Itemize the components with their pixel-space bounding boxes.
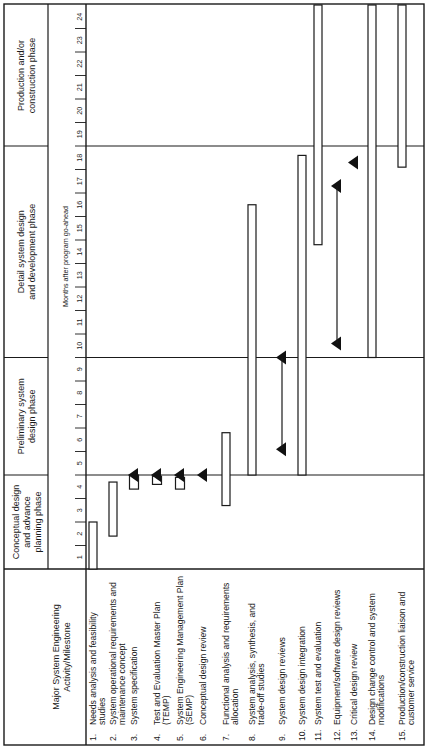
month-tick-label: 20 bbox=[75, 107, 84, 115]
activity-bar-1 bbox=[89, 522, 97, 569]
activity-number: 8. bbox=[247, 734, 257, 741]
axis-label: Months after program go-ahead bbox=[61, 206, 70, 307]
activity-number: 13. bbox=[349, 729, 359, 741]
activity-label: (SEMP) bbox=[184, 695, 194, 725]
activity-label: allocation bbox=[230, 688, 240, 725]
phase-label: construction phase bbox=[27, 38, 37, 114]
month-tick-label: 24 bbox=[75, 13, 84, 21]
activity-number: 2. bbox=[108, 734, 118, 741]
milestone-9 bbox=[276, 351, 286, 365]
activity-number: 5. bbox=[175, 734, 185, 741]
phase-label: Production and/or bbox=[16, 40, 26, 111]
month-tick-label: 14 bbox=[75, 248, 84, 256]
gantt-chart: Conceptual designand advanceplanning pha… bbox=[0, 0, 429, 749]
activity-number: 15. bbox=[397, 729, 407, 741]
phase-label: Conceptual design bbox=[11, 485, 21, 560]
month-tick-label: 12 bbox=[75, 295, 84, 303]
activity-label: (TEMP) bbox=[161, 695, 171, 725]
activity-label: Critical design review bbox=[349, 643, 359, 725]
month-tick-label: 6 bbox=[75, 438, 84, 442]
activity-number: 11. bbox=[313, 730, 323, 741]
month-tick-label: 22 bbox=[75, 60, 84, 68]
phase-label: Preliminary system bbox=[16, 378, 26, 454]
month-tick-label: 16 bbox=[75, 201, 84, 209]
activity-label: Equipment/software design reviews bbox=[332, 590, 342, 725]
activity-bars bbox=[89, 5, 406, 569]
activity-label: Conceptual design review bbox=[198, 626, 208, 725]
month-tick-label: 13 bbox=[75, 271, 84, 279]
activity-label: System test and evaluation bbox=[313, 622, 323, 725]
activity-number: 3. bbox=[129, 734, 139, 741]
month-tick-label: 17 bbox=[75, 177, 84, 185]
activity-bar-15 bbox=[398, 5, 406, 167]
activity-number: 7. bbox=[221, 734, 231, 741]
activity-bar-7 bbox=[222, 433, 230, 506]
month-tick-label: 1 bbox=[75, 555, 84, 559]
activity-label: System specification bbox=[129, 646, 139, 725]
activity-label: studies bbox=[97, 698, 107, 725]
milestone-12 bbox=[331, 336, 341, 350]
month-axis: 123456789101112131415161718192021222324 bbox=[75, 13, 86, 560]
activity-number: 10. bbox=[297, 729, 307, 741]
milestone-9 bbox=[276, 442, 286, 456]
month-tick-label: 11 bbox=[75, 319, 84, 326]
month-tick-label: 2 bbox=[75, 532, 84, 536]
activity-label: trade-off studies bbox=[256, 664, 266, 725]
month-tick-label: 5 bbox=[75, 461, 84, 465]
activity-label: customer service bbox=[406, 660, 416, 725]
milestone-13 bbox=[348, 155, 358, 169]
activity-label: System design reviews bbox=[277, 637, 287, 725]
activity-bar-14 bbox=[368, 5, 376, 358]
month-tick-label: 3 bbox=[75, 508, 84, 512]
activity-number: 1. bbox=[88, 734, 98, 741]
activity-label: maintenance concept bbox=[117, 643, 127, 725]
month-tick-label: 10 bbox=[75, 342, 84, 350]
activity-number: 4. bbox=[152, 734, 162, 741]
activity-column-header: Major System Engineering bbox=[51, 604, 61, 710]
phase-label: design phase bbox=[27, 389, 37, 443]
phase-label: and advance bbox=[22, 496, 32, 548]
activity-bar-2 bbox=[109, 482, 117, 536]
activity-number: 12. bbox=[332, 729, 342, 741]
activity-column-header-line2: Activity/Milestone bbox=[62, 622, 72, 692]
milestone-6 bbox=[197, 468, 207, 482]
month-tick-label: 15 bbox=[75, 224, 84, 232]
month-tick-label: 23 bbox=[75, 36, 84, 44]
month-tick-label: 19 bbox=[75, 130, 84, 138]
milestone-12 bbox=[331, 179, 341, 193]
activity-labels: 1.Needs analysis and feasibilitystudies2… bbox=[88, 576, 416, 741]
phase-label: planning phase bbox=[33, 491, 43, 552]
activity-number: 9. bbox=[277, 734, 287, 741]
activity-label: modifications bbox=[376, 675, 386, 725]
activity-number: 14. bbox=[367, 729, 377, 741]
month-tick-label: 18 bbox=[75, 154, 84, 162]
month-tick-label: 7 bbox=[75, 414, 84, 418]
activity-bar-10 bbox=[298, 155, 306, 475]
activity-bar-11 bbox=[314, 5, 322, 245]
activity-bar-8 bbox=[248, 205, 256, 475]
month-tick-label: 4 bbox=[75, 485, 84, 489]
month-tick-label: 9 bbox=[75, 367, 84, 371]
phase-label: Detail system design bbox=[16, 210, 26, 293]
activity-number: 6. bbox=[198, 734, 208, 741]
milestones bbox=[128, 155, 358, 482]
month-tick-label: 8 bbox=[75, 391, 84, 395]
activity-label: System design integration bbox=[297, 626, 307, 725]
phase-label: and development phase bbox=[27, 204, 37, 300]
month-tick-label: 21 bbox=[75, 83, 84, 91]
